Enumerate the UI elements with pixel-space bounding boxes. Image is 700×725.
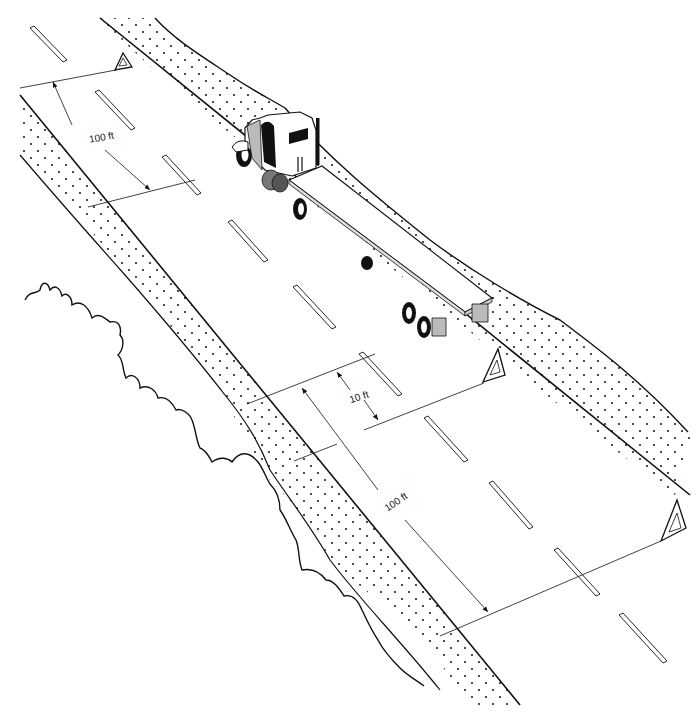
far-distance-label: 100 ft bbox=[88, 130, 115, 145]
exhaust-stack bbox=[316, 118, 320, 165]
warning-triangle-icon bbox=[115, 53, 132, 70]
front-distance-label: 100 ft bbox=[382, 490, 409, 513]
near-distance-label: 10 ft bbox=[348, 389, 370, 406]
highway-diagram: 100 ft bbox=[0, 0, 700, 725]
tractor-trailer bbox=[232, 112, 492, 338]
